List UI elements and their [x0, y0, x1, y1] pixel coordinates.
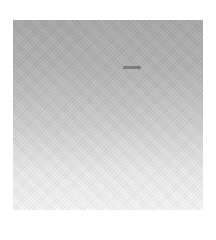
texture-square [13, 20, 203, 210]
dark-mark [123, 66, 141, 69]
noise-overlay [13, 20, 203, 210]
